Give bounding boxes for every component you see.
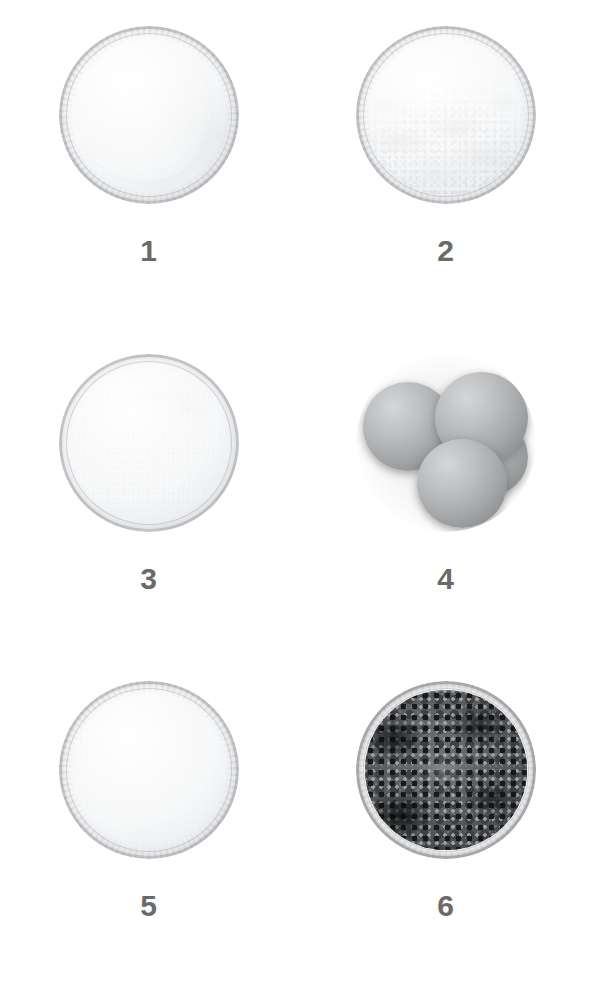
bead-cluster [356,354,536,532]
dark-granule-clumps [365,690,527,850]
sample-image-5 [39,655,259,885]
sample-contents-1 [68,35,230,195]
bead [417,439,507,528]
glass-dish-3 [59,354,239,532]
sample-label-1: 1 [140,236,157,266]
glass-dish-2 [356,26,536,204]
dish-shadow [68,35,230,195]
sample-image-1 [39,0,259,230]
sample-figure-panel: 1 2 3 [0,0,594,984]
sample-cell-5: 5 [0,655,297,921]
sample-cell-3: 3 [0,328,297,594]
sample-label-3: 3 [140,564,157,594]
granular-powder-specks [365,35,527,195]
sample-cell-4: 4 [297,328,594,594]
sample-contents-5 [68,690,230,850]
sample-cell-1: 1 [0,0,297,266]
sample-label-6: 6 [437,891,454,921]
crystalline-powder [68,690,230,850]
sample-contents-3 [68,363,230,523]
sample-contents-2 [365,35,527,195]
sample-cell-2: 2 [297,0,594,266]
sample-image-4 [336,328,556,558]
sample-cell-6: 6 [297,655,594,921]
sample-label-2: 2 [437,236,454,266]
sample-contents-6 [365,690,527,850]
glass-dish-6 [356,681,536,859]
sample-image-3 [39,328,259,558]
sample-label-4: 4 [437,564,454,594]
glass-dish-1 [59,26,239,204]
sample-contents-4 [356,354,536,532]
sample-image-6 [336,655,556,885]
sample-label-5: 5 [140,891,157,921]
sample-image-2 [336,0,556,230]
glass-dish-5 [59,681,239,859]
fine-white-powder [71,366,227,520]
